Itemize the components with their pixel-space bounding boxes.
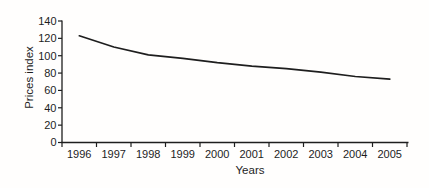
y-tick-label: 100 (38, 50, 56, 62)
x-tick-label: 2002 (274, 148, 298, 160)
y-tick-label: 0 (50, 136, 56, 148)
scanned-line-chart-page: 0204060801001201401996199719981999200020… (0, 0, 429, 188)
x-tick-label: 1999 (171, 148, 195, 160)
y-tick-label: 60 (44, 84, 56, 96)
y-tick-label: 20 (44, 119, 56, 131)
x-tick-label: 1996 (67, 148, 91, 160)
x-tick-label: 1998 (136, 148, 160, 160)
y-tick-label: 140 (38, 15, 56, 27)
y-tick-label: 40 (44, 102, 56, 114)
x-tick-label: 2003 (309, 148, 333, 160)
x-tick-label: 1997 (102, 148, 126, 160)
x-tick-label: 2000 (205, 148, 229, 160)
x-axis-title: Years (236, 164, 265, 176)
prices-index-data-line (79, 36, 390, 79)
prices-index-line-chart: 0204060801001201401996199719981999200020… (0, 0, 429, 188)
y-tick-label: 120 (38, 32, 56, 44)
x-tick-label: 2004 (343, 148, 367, 160)
y-tick-label: 80 (44, 67, 56, 79)
x-tick-label: 2005 (378, 148, 402, 160)
y-axis-title: Prices index (23, 46, 35, 109)
x-tick-label: 2001 (240, 148, 264, 160)
